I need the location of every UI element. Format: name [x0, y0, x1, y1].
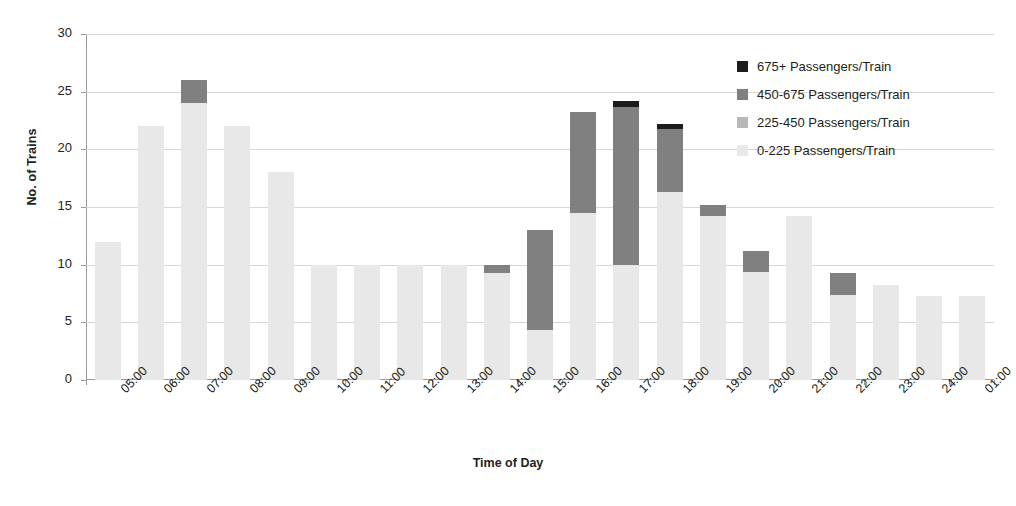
bar-segment	[484, 265, 510, 273]
x-tick-label: 12:00	[420, 386, 430, 396]
x-tick-label: 18:00	[680, 386, 690, 396]
x-tick-label: 15:00	[550, 386, 560, 396]
bar-2200[interactable]	[830, 273, 856, 380]
bar-segment	[570, 112, 596, 212]
bar-segment	[397, 265, 423, 380]
bar-1900[interactable]	[700, 205, 726, 380]
x-tick-label: 21:00	[809, 386, 819, 396]
bar-segment	[743, 251, 769, 272]
x-tick-label: 23:00	[896, 386, 906, 396]
bar-0800[interactable]	[224, 126, 250, 380]
x-axis-title: Time of Day	[0, 456, 1016, 470]
x-tick-label: 10:00	[334, 386, 344, 396]
legend-label: 0-225 Passengers/Train	[757, 143, 895, 158]
bar-segment	[138, 126, 164, 380]
bar-1200[interactable]	[397, 265, 423, 380]
bar-0700[interactable]	[181, 80, 207, 380]
bar-1000[interactable]	[311, 265, 337, 380]
y-tick-label: 25	[38, 83, 72, 98]
bar-0900[interactable]	[268, 172, 294, 380]
legend-swatch-icon	[737, 89, 748, 100]
y-axis-title: No. of Trains	[25, 87, 39, 247]
bar-1800[interactable]	[657, 124, 683, 380]
legend-item[interactable]: 675+ Passengers/Train	[737, 52, 1005, 80]
bar-1100[interactable]	[354, 265, 380, 380]
x-tick-label: 06:00	[161, 386, 171, 396]
x-tick-label: 07:00	[204, 386, 214, 396]
bar-segment	[268, 172, 294, 380]
x-tick-label: 01:00	[982, 386, 992, 396]
bar-segment	[181, 103, 207, 380]
bar-segment	[657, 129, 683, 192]
bar-0600[interactable]	[138, 126, 164, 380]
x-tick-label: 22:00	[853, 386, 863, 396]
legend-item[interactable]: 0-225 Passengers/Train	[737, 136, 1005, 164]
x-tick-label: 16:00	[593, 386, 603, 396]
bar-segment	[830, 273, 856, 295]
bar-segment	[527, 230, 553, 330]
x-tick-label: 13:00	[464, 386, 474, 396]
y-tick-label: 10	[38, 256, 72, 271]
bar-segment	[484, 273, 510, 380]
bar-segment	[311, 265, 337, 380]
bar-1400[interactable]	[484, 265, 510, 380]
y-tick-label: 0	[38, 371, 72, 386]
bar-segment	[570, 213, 596, 380]
y-tick-label: 20	[38, 140, 72, 155]
y-tick-label: 15	[38, 198, 72, 213]
x-tick-label: 05:00	[118, 386, 128, 396]
bar-0500[interactable]	[95, 242, 121, 380]
x-tick-label: 19:00	[723, 386, 733, 396]
bar-2100[interactable]	[786, 216, 812, 380]
x-tick-mark	[86, 380, 87, 385]
x-axis-tick-labels: 05:0006:0007:0008:0009:0010:0011:0012:00…	[86, 386, 994, 446]
chart-container: No. of Trains 051015202530 05:0006:0007:…	[0, 0, 1016, 506]
legend-label: 675+ Passengers/Train	[757, 59, 891, 74]
bar-segment	[700, 205, 726, 217]
legend-item[interactable]: 225-450 Passengers/Train	[737, 108, 1005, 136]
y-tick-label: 30	[38, 25, 72, 40]
bar-segment	[657, 192, 683, 380]
x-tick-label: 20:00	[766, 386, 776, 396]
bar-1500[interactable]	[527, 230, 553, 380]
x-tick-label: 14:00	[507, 386, 517, 396]
bar-segment	[786, 216, 812, 380]
x-tick-label: 08:00	[247, 386, 257, 396]
bar-segment	[224, 126, 250, 380]
bar-segment	[441, 265, 467, 380]
y-tick-label: 5	[38, 313, 72, 328]
bar-segment	[743, 272, 769, 380]
x-tick-label: 17:00	[636, 386, 646, 396]
bar-1300[interactable]	[441, 265, 467, 380]
x-tick-label: 09:00	[291, 386, 301, 396]
legend-swatch-icon	[737, 145, 748, 156]
x-tick-label: 24:00	[939, 386, 949, 396]
chart-legend: 675+ Passengers/Train450-675 Passengers/…	[737, 52, 1005, 164]
bar-segment	[613, 107, 639, 265]
x-tick-label: 11:00	[377, 386, 387, 396]
bar-segment	[613, 265, 639, 380]
legend-swatch-icon	[737, 117, 748, 128]
legend-label: 450-675 Passengers/Train	[757, 87, 910, 102]
bar-1700[interactable]	[613, 101, 639, 380]
bar-1600[interactable]	[570, 112, 596, 380]
bar-segment	[354, 265, 380, 380]
bar-segment	[181, 80, 207, 103]
bar-segment	[95, 242, 121, 380]
legend-swatch-icon	[737, 61, 748, 72]
bar-2000[interactable]	[743, 251, 769, 380]
legend-item[interactable]: 450-675 Passengers/Train	[737, 80, 1005, 108]
legend-label: 225-450 Passengers/Train	[757, 115, 910, 130]
bar-segment	[700, 216, 726, 380]
